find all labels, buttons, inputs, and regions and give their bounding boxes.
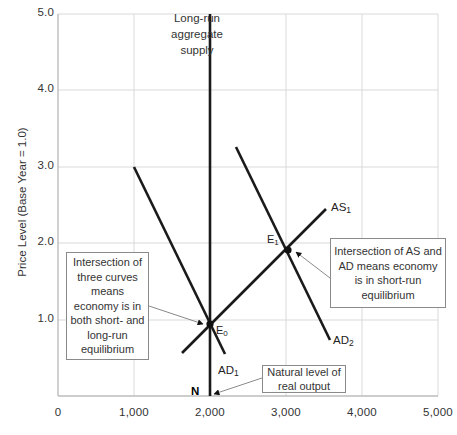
x-tick-3000: 3,000 [256,406,316,418]
as1-label-sub: 1 [346,205,351,215]
lras-label-line3: supply [151,42,243,58]
ad2-curve-label: AD2 [333,334,354,346]
callout-natural-level-of-real-output: Natural level of real output [262,365,346,393]
e1-label-sub: 1 [274,238,278,247]
ad1-curve-label: AD1 [218,364,239,376]
x-tick-2000: 2,000 [180,406,240,418]
y-axis-title: Price Level (Base Year = 1.0) [16,112,28,292]
y-tick-4: 4.0 [18,82,54,94]
x-tick-4000: 4,000 [332,406,392,418]
callout-left-text: Intersection of three curves means econo… [70,255,145,357]
as1-curve-label: AS1 [331,201,351,213]
leader-right-callout [296,252,330,278]
natural-output-marker-label: N [191,385,199,397]
as1-label-text: AS [331,201,346,213]
callout-right-text: Intersection of AS and AD means economy … [334,244,442,302]
lras-label-line1: Long-run [151,10,243,26]
point-e0 [206,320,213,327]
callout-natural-text: Natural level of real output [266,365,342,394]
x-tick-5000: 5,000 [408,406,457,418]
leader-left-callout [149,306,203,324]
ad1-label-sub: 1 [234,368,239,378]
e0-label-sub: 0 [223,329,227,338]
ad1-label-text: AD [218,364,234,376]
e1-point-label: E1 [267,233,279,245]
point-e1 [284,246,291,253]
y-tick-1: 1.0 [18,312,54,324]
x-tick-0: 0 [28,406,88,418]
y-tick-5: 5.0 [18,6,54,18]
callout-long-run-equilibrium: Intersection of three curves means econo… [66,252,149,360]
lras-label-line2: aggregate [151,26,243,42]
chart-figure: 5.0 4.0 3.0 2.0 1.0 0 1,000 2,000 3,000 … [0,0,457,435]
e0-point-label: E0 [216,324,228,336]
long-run-aggregate-supply-label: Long-run aggregate supply [151,10,243,58]
callout-short-run-equilibrium: Intersection of AS and AD means economy … [330,238,446,308]
curve-as1 [182,209,326,353]
leader-natural-callout [214,378,262,394]
x-tick-1000: 1,000 [104,406,164,418]
curve-ad2 [236,147,330,340]
ad2-label-text: AD [333,334,349,346]
ad2-label-sub: 2 [349,338,354,348]
